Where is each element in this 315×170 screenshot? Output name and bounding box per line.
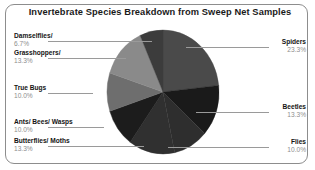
callout-flies: Flies 10.0% [287, 138, 306, 155]
callout-label: Flies [287, 138, 306, 146]
callout-value: 10.0% [287, 146, 306, 154]
callout-value: 6.7% [14, 40, 52, 48]
callout-value: 13.3% [14, 145, 70, 153]
callout-label: Butterflies/ Moths [14, 137, 70, 145]
callout-spiders: Spiders 23.3% [282, 38, 306, 55]
callout-label: Grasshoppers/ [14, 49, 61, 57]
callout-beetles: Beetles 13.3% [283, 103, 306, 120]
callout-value: 13.3% [283, 111, 306, 119]
leader-line-beetles [196, 112, 269, 113]
callout-true-bugs: True Bugs 10.0% [14, 84, 46, 101]
leader-line-true-bugs [48, 93, 93, 94]
callout-butterflies-moths: Butterflies/ Moths 13.3% [14, 137, 70, 154]
leader-line-damselflies [48, 41, 152, 42]
chart-title: Invertebrate Species Breakdown from Swee… [0, 7, 315, 17]
callout-value: 10.0% [14, 126, 73, 134]
callout-label: Beetles [283, 103, 306, 111]
callout-label: Damselflies/ [14, 32, 52, 40]
callout-label: Ants/ Bees/ Wasps [14, 118, 73, 126]
callout-ants-bees-wasps: Ants/ Bees/ Wasps 10.0% [14, 118, 73, 135]
callout-value: 23.3% [282, 46, 306, 54]
leader-line-spiders [186, 47, 269, 48]
callout-value: 10.0% [14, 92, 46, 100]
callout-grasshoppers: Grasshoppers/ 13.3% [14, 49, 61, 66]
callout-label: Spiders [282, 38, 306, 46]
callout-label: True Bugs [14, 84, 46, 92]
callout-damselflies: Damselflies/ 6.7% [14, 32, 52, 49]
callout-value: 13.3% [14, 57, 61, 65]
leader-line-flies [168, 147, 269, 148]
